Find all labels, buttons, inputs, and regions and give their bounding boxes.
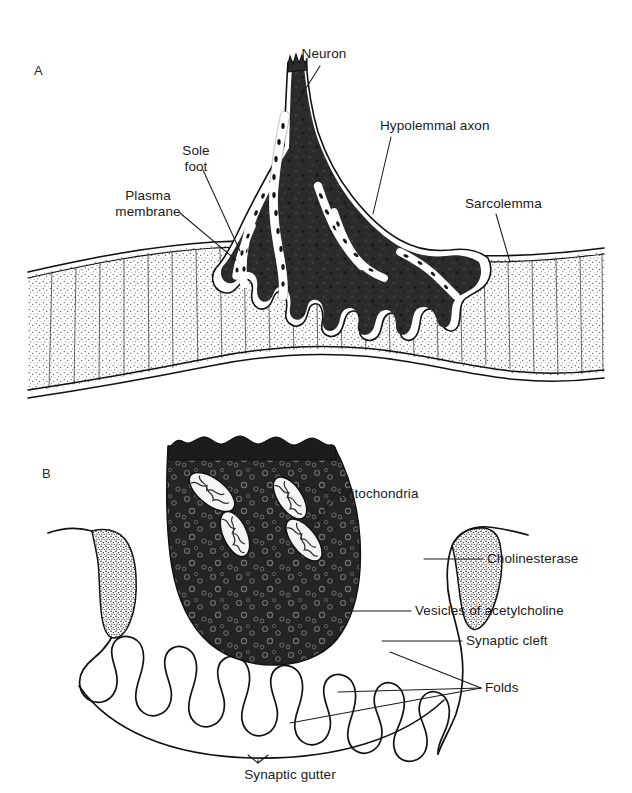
label-cholinesterase: Cholinesterase xyxy=(487,551,578,566)
panel-b-letter: B xyxy=(42,466,51,481)
panel-a: A xyxy=(28,46,604,398)
figure-neuromuscular-junction: A xyxy=(0,0,632,793)
leader-sarcolemma xyxy=(496,214,510,262)
label-plasma-membrane-line1: Plasma xyxy=(125,188,171,203)
label-sole-foot-line2: foot xyxy=(185,159,208,174)
synaptic-gutter-arc xyxy=(79,686,444,758)
label-synaptic-cleft: Synaptic cleft xyxy=(466,633,548,648)
neuron-terminal xyxy=(213,54,491,340)
label-neuron: Neuron xyxy=(302,46,347,61)
label-vesicles-of-acetylcholine: Vesicles of acetylcholine xyxy=(415,603,564,618)
cholinesterase-cap-left xyxy=(92,530,136,638)
panel-a-letter: A xyxy=(34,63,43,78)
leader-folds-c xyxy=(290,688,481,723)
label-folds: Folds xyxy=(485,680,519,695)
leader-hypolemmal-axon xyxy=(373,137,391,214)
leader-sole-foot xyxy=(203,170,240,251)
bulb-top-wavy-edge xyxy=(168,436,336,460)
panel-b: B xyxy=(42,436,578,782)
label-plasma-membrane-line2: membrane xyxy=(115,204,180,219)
label-mitochondria: Mitochondria xyxy=(340,486,419,501)
label-synaptic-gutter: Synaptic gutter xyxy=(244,767,336,782)
label-hypolemmal-axon: Hypolemmal axon xyxy=(380,118,490,133)
label-sarcolemma: Sarcolemma xyxy=(465,196,542,211)
synaptic-terminal-bulb xyxy=(167,436,361,665)
label-sole-foot-line1: Sole xyxy=(182,143,209,158)
leader-folds-a xyxy=(390,652,481,688)
